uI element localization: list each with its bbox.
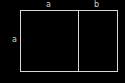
label-left-a: a: [12, 36, 17, 44]
outer-rectangle: [20, 10, 118, 72]
label-top-b: b: [94, 1, 99, 9]
label-top-a: a: [46, 1, 51, 9]
divider-line: [78, 10, 79, 72]
